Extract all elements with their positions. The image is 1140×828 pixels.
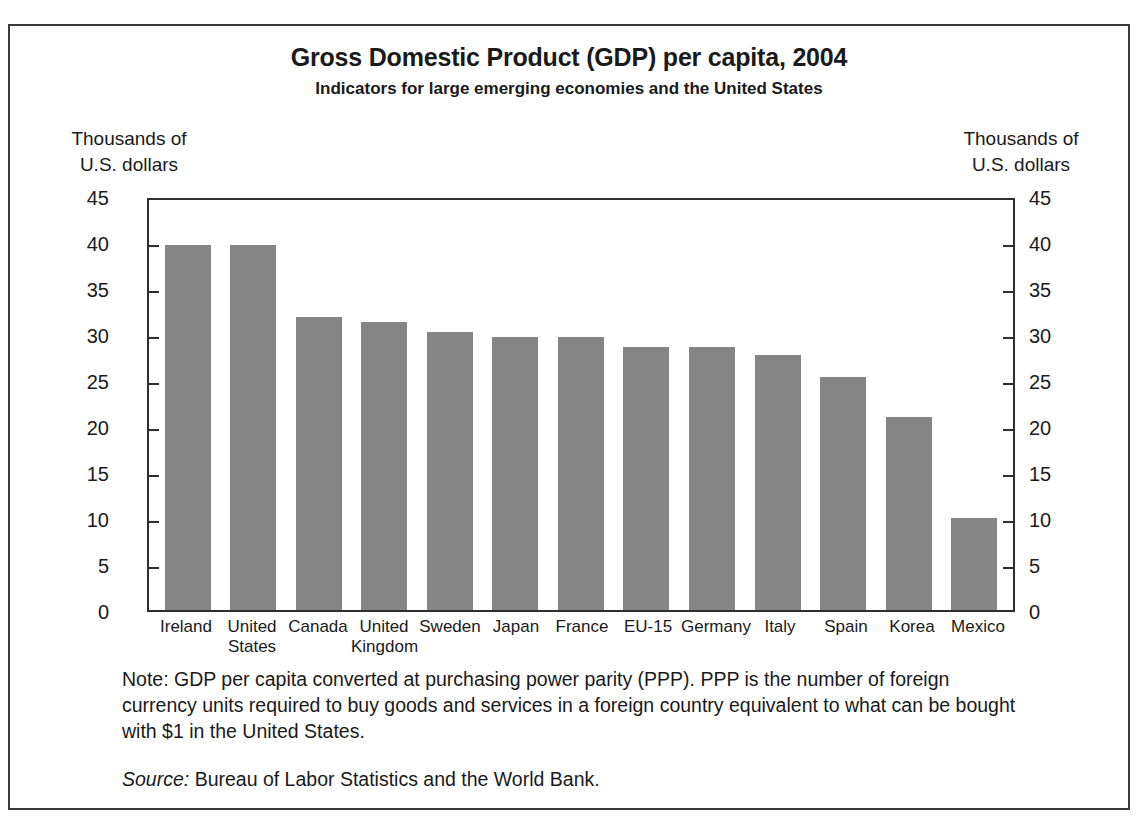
chart-note: Note: GDP per capita converted at purcha…	[122, 667, 1027, 745]
y-axis-tick-label: 15	[1029, 464, 1089, 484]
x-axis-label: France	[549, 617, 615, 656]
y-axis-unit-label-left: Thousands of U.S. dollars	[34, 126, 224, 177]
y-axis-tick-label: 15	[49, 464, 109, 484]
y-axis-tick-label: 5	[49, 556, 109, 576]
x-axis-label: Italy	[747, 617, 813, 656]
y-axis-tick-label: 10	[49, 510, 109, 530]
y-axis-tick-label: 30	[1029, 326, 1089, 346]
bar	[558, 337, 604, 610]
x-axis-label: Spain	[813, 617, 879, 656]
y-axis-tick	[149, 521, 159, 523]
y-axis-tick-label: 25	[49, 372, 109, 392]
bar	[296, 317, 342, 610]
y-axis-tick	[1003, 521, 1013, 523]
x-axis-label: Japan	[483, 617, 549, 656]
y-axis-tick-label: 25	[1029, 372, 1089, 392]
chart-figure: Gross Domestic Product (GDP) per capita,…	[8, 24, 1130, 810]
y-axis-tick-label: 0	[1029, 602, 1089, 622]
x-axis-label: EU-15	[615, 617, 681, 656]
bar	[755, 355, 801, 610]
y-axis-tick-label: 5	[1029, 556, 1089, 576]
y-axis-tick-label: 40	[1029, 234, 1089, 254]
bar	[820, 377, 866, 610]
plot-area	[147, 198, 1015, 612]
bar	[492, 337, 538, 610]
y-axis-tick	[1003, 475, 1013, 477]
bar	[165, 245, 211, 610]
x-axis-label: United Kingdom	[351, 617, 417, 656]
y-axis-tick	[1003, 245, 1013, 247]
y-axis-tick-label: 35	[1029, 280, 1089, 300]
bar	[951, 518, 997, 610]
x-axis-label: Canada	[285, 617, 351, 656]
y-axis-tick	[149, 567, 159, 569]
bar	[230, 245, 276, 610]
y-axis-tick-label: 0	[49, 602, 109, 622]
y-axis-tick	[149, 245, 159, 247]
y-axis-tick	[1003, 291, 1013, 293]
y-axis-tick	[149, 291, 159, 293]
bar	[361, 322, 407, 610]
y-axis-tick	[149, 337, 159, 339]
x-axis-label: Ireland	[153, 617, 219, 656]
chart-source: Source: Bureau of Labor Statistics and t…	[122, 767, 1027, 793]
y-axis-tick-label: 35	[49, 280, 109, 300]
x-axis-label: United States	[219, 617, 285, 656]
bar	[427, 332, 473, 610]
y-axis-tick-label: 30	[49, 326, 109, 346]
y-axis-tick-label: 20	[1029, 418, 1089, 438]
y-axis-tick	[1003, 429, 1013, 431]
y-axis-tick-label: 45	[49, 188, 109, 208]
y-axis-tick	[1003, 567, 1013, 569]
y-axis-tick	[1003, 383, 1013, 385]
y-axis-tick-label: 40	[49, 234, 109, 254]
bar-series	[149, 200, 1013, 610]
y-axis-tick-label: 45	[1029, 188, 1089, 208]
x-axis-category-labels: IrelandUnited StatesCanadaUnited Kingdom…	[147, 617, 1015, 656]
source-label: Source:	[122, 768, 189, 790]
bar	[623, 347, 669, 610]
x-axis-label: Korea	[879, 617, 945, 656]
x-axis-label: Germany	[681, 617, 747, 656]
x-axis-label: Mexico	[945, 617, 1011, 656]
source-text: Bureau of Labor Statistics and the World…	[195, 768, 600, 790]
chart-subtitle: Indicators for large emerging economies …	[10, 80, 1128, 99]
y-axis-tick-label: 20	[49, 418, 109, 438]
bar	[689, 347, 735, 610]
y-axis-tick	[149, 383, 159, 385]
y-axis-unit-label-right: Thousands of U.S. dollars	[926, 126, 1116, 177]
title-block: Gross Domestic Product (GDP) per capita,…	[10, 44, 1128, 98]
x-axis-label: Sweden	[417, 617, 483, 656]
y-axis-tick	[1003, 337, 1013, 339]
bar	[886, 417, 932, 610]
chart-title: Gross Domestic Product (GDP) per capita,…	[10, 44, 1128, 72]
y-axis-tick	[149, 475, 159, 477]
y-axis-tick	[149, 429, 159, 431]
y-axis-tick-label: 10	[1029, 510, 1089, 530]
